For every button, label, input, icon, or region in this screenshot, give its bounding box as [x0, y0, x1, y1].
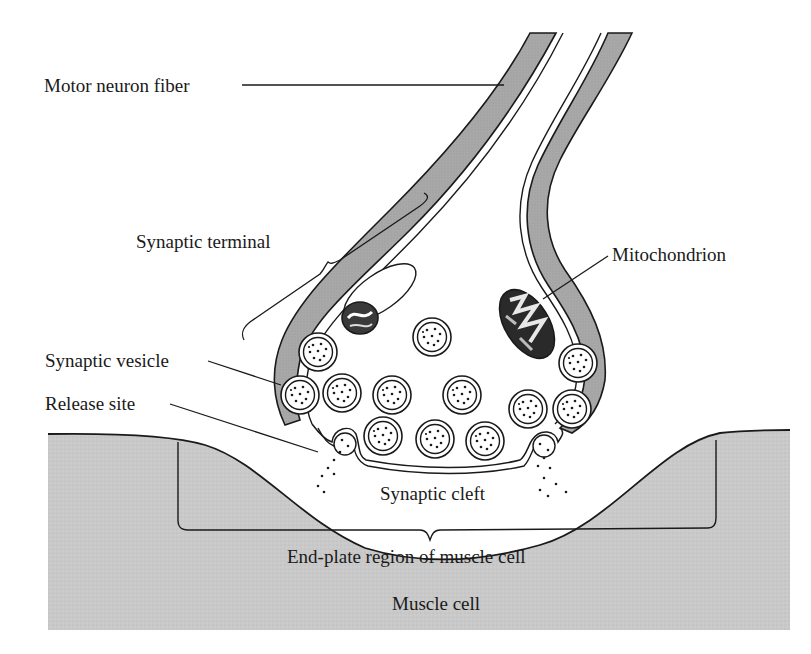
label-muscle-cell: Muscle cell: [392, 593, 480, 614]
label-release-site: Release site: [45, 393, 135, 414]
label-mitochondrion: Mitochondrion: [612, 244, 726, 265]
label-motor-neuron-fiber: Motor neuron fiber: [44, 75, 190, 96]
label-synaptic-cleft: Synaptic cleft: [380, 483, 486, 504]
neuromuscular-junction-diagram: Motor neuron fiber Synaptic terminal Mit…: [0, 0, 811, 654]
label-synaptic-terminal: Synaptic terminal: [136, 231, 271, 252]
label-end-plate-region: End-plate region of muscle cell: [287, 546, 525, 567]
label-synaptic-vesicle: Synaptic vesicle: [45, 350, 169, 371]
leader-synaptic-vesicle: [208, 361, 281, 385]
